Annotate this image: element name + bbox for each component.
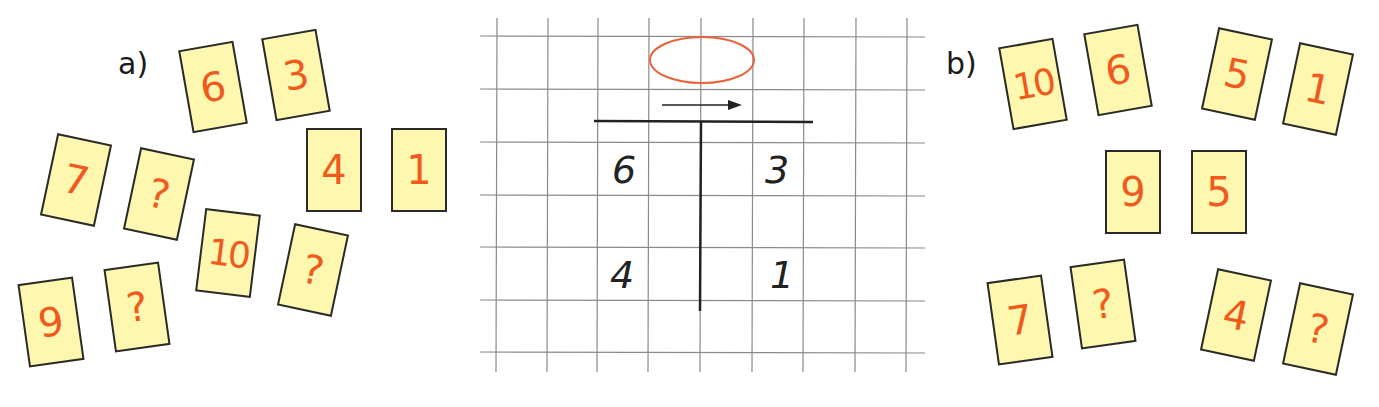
arrow-right-icon: [662, 100, 742, 110]
t-row-2-left: 4: [610, 253, 634, 297]
t-chart-vertical-bar: [700, 121, 701, 311]
t-chart-grid: 6 3 4 1: [0, 0, 1379, 407]
t-row-1-right: 3: [765, 148, 789, 192]
t-row-1-left: 6: [612, 148, 636, 192]
t-row-2-right: 1: [770, 253, 794, 297]
answer-oval[interactable]: [650, 37, 754, 83]
grid-lines: [480, 18, 925, 372]
t-chart-horizontal-bar: [594, 121, 813, 122]
